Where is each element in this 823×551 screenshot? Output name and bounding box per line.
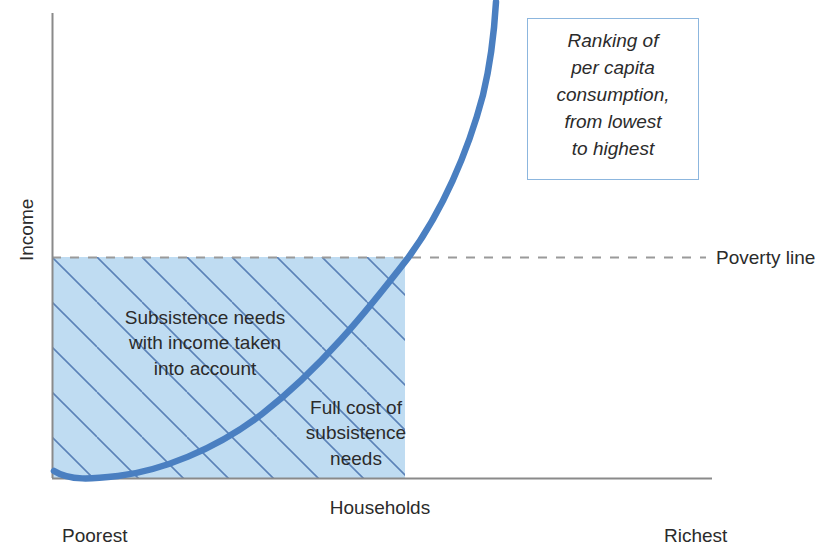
x-axis-title: Households — [0, 496, 760, 519]
shaded-region-label: Subsistence needs with income taken into… — [60, 305, 350, 381]
x-axis-high-label: Richest — [664, 524, 727, 547]
curve-label: Full cost of subsistence needs — [276, 395, 436, 471]
y-axis-title-text: Income — [15, 231, 38, 261]
poverty-line-label: Poverty line — [716, 246, 815, 269]
poverty-subsistence-chart: Income Households Poorest Richest Povert… — [0, 0, 823, 551]
ranking-callout-text: Ranking of per capita consumption, from … — [527, 28, 699, 163]
y-axis-title: Income — [0, 231, 85, 261]
x-axis-low-label: Poorest — [62, 524, 127, 547]
